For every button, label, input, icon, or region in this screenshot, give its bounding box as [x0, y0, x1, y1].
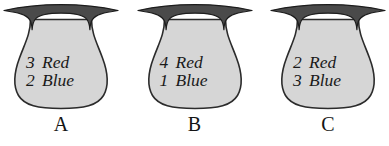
- urn-shape-c: 2 Red 3 Blue: [267, 0, 389, 112]
- urn-vase-icon: [267, 0, 389, 112]
- urn-vase-icon: [0, 0, 122, 112]
- urn-group-b: 4 Red 1 Blue B: [134, 0, 256, 146]
- urn-group-a: 3 Red 2 Blue A: [0, 0, 122, 146]
- urn-group-c: 2 Red 3 Blue C: [267, 0, 389, 146]
- urn-vase-icon: [134, 0, 256, 112]
- three-urns-figure: 3 Red 2 Blue A 4 Red: [0, 0, 389, 146]
- urn-shape-a: 3 Red 2 Blue: [0, 0, 122, 112]
- urn-label-b: B: [188, 114, 202, 134]
- urn-label-c: C: [321, 114, 335, 134]
- urn-label-a: A: [54, 114, 69, 134]
- urn-shape-b: 4 Red 1 Blue: [134, 0, 256, 112]
